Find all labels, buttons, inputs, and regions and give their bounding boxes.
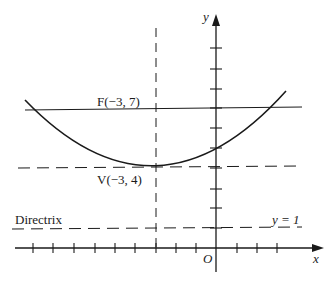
x-axis-label: x [312, 251, 319, 266]
focus-line [25, 107, 302, 110]
parabola-diagram: y x O F(−3, 7) V(−3, 4) Directrix y = 1 [0, 0, 330, 285]
y-axis-label: y [201, 9, 209, 24]
directrix-label: Directrix [15, 212, 62, 227]
focus-label: F(−3, 7) [97, 94, 140, 109]
vertex-label: V(−3, 4) [97, 172, 142, 187]
directrix-equation: y = 1 [270, 212, 300, 227]
y-axis-arrow-icon [212, 14, 220, 26]
directrix-line [12, 227, 302, 229]
origin-label: O [203, 251, 213, 266]
